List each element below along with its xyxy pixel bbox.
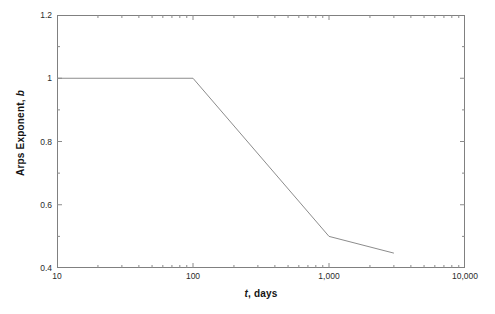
x-axis-title-rest: , days [248, 288, 278, 299]
y-axis-title-variable: b [15, 90, 26, 96]
y-tick-label: 0.4 [26, 264, 52, 273]
plot-area [57, 15, 465, 268]
y-axis-title-prefix: Arps Exponent, [15, 96, 26, 176]
y-tick-label: 0.8 [26, 137, 52, 146]
x-tick-label: 1,000 [318, 272, 339, 281]
y-tick-label: 1.2 [26, 11, 52, 20]
x-tick-label: 10 [52, 272, 61, 281]
x-tick-label: 100 [186, 272, 200, 281]
y-axis-title: Arps Exponent, b [12, 53, 28, 213]
y-tick-label: 1 [26, 74, 52, 83]
x-tick-label: 10,000 [452, 272, 478, 281]
chart-figure: 0.40.60.811.2 101001,00010,000 Arps Expo… [0, 0, 495, 314]
x-axis-title: t, days [244, 288, 277, 299]
y-tick-label: 0.6 [26, 201, 52, 210]
